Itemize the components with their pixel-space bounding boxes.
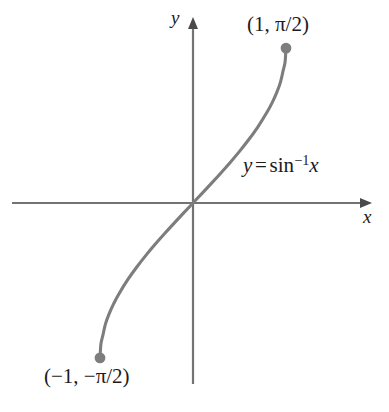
equation-equals: = bbox=[255, 153, 267, 177]
equation-function-name: sin bbox=[270, 153, 295, 177]
arcsine-graph-figure: y x (1, π/2) (−1, −π/2) y=sin−1x bbox=[0, 0, 389, 412]
equation-argument: x bbox=[309, 153, 318, 177]
equation-lhs: y bbox=[243, 153, 252, 177]
plot-canvas bbox=[0, 0, 389, 412]
equation-label: y=sin−1x bbox=[243, 153, 319, 176]
endpoint-marker-lower bbox=[95, 352, 106, 363]
x-axis-label: x bbox=[363, 207, 371, 226]
endpoint-marker-upper bbox=[281, 43, 292, 54]
y-axis-label: y bbox=[171, 8, 179, 27]
upper-endpoint-label: (1, π/2) bbox=[247, 14, 309, 35]
y-axis-arrowhead bbox=[188, 17, 198, 29]
equation-exponent: −1 bbox=[294, 152, 309, 168]
lower-endpoint-label: (−1, −π/2) bbox=[44, 366, 130, 387]
